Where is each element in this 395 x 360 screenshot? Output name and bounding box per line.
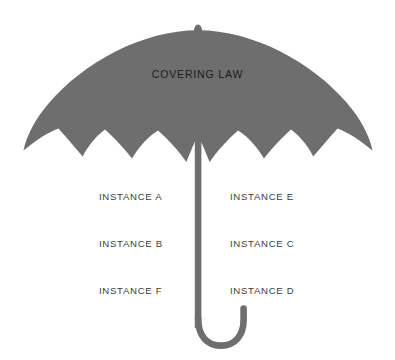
shaft-icon: [195, 133, 202, 328]
umbrella-illustration: [0, 0, 395, 360]
diagram-canvas: COVERING LAW INSTANCE A INSTANCE B INSTA…: [0, 0, 395, 360]
handle-hook-icon: [198, 309, 244, 346]
